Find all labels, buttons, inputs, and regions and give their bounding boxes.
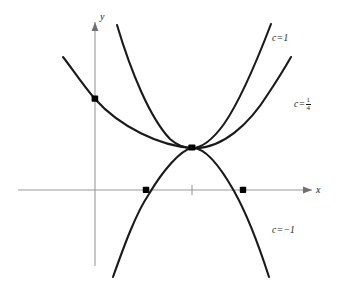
y-axis-arrowhead	[92, 22, 99, 31]
curves-group	[63, 24, 291, 277]
figure-canvas: y x c=1 c= 1 4 c=−1	[0, 0, 346, 290]
fraction-numerator: 1	[306, 97, 312, 104]
curve-c-equals-minus-1	[113, 148, 269, 277]
curve-c-equals-1	[117, 24, 271, 148]
tangency-point	[188, 144, 195, 150]
curve-label-equals-sign: =	[276, 33, 283, 43]
x-axis-label: x	[316, 185, 320, 195]
curve-label-c-value: −1	[284, 225, 295, 235]
parabola-family-plot	[0, 0, 346, 290]
curve-label-c-equals-1: c=1	[272, 34, 288, 44]
fraction-denominator: 4	[306, 104, 312, 112]
curve-label-c-value: 1	[284, 33, 289, 43]
curve-label-c-equals-one-quarter: c= 1 4	[294, 97, 311, 113]
curve-label-c-equals-minus-1: c=−1	[272, 226, 295, 236]
x-axis-point-left	[143, 187, 149, 193]
curve-label-equals-sign: =	[276, 225, 283, 235]
x-axis-arrowhead	[303, 187, 312, 194]
fraction-one-quarter: 1 4	[306, 97, 312, 113]
y-axis-label: y	[100, 12, 104, 22]
y-axis-point	[92, 96, 99, 102]
x-axis-point-right	[240, 187, 246, 193]
curve-label-equals-sign: =	[298, 99, 305, 109]
curve-c-equals-one-quarter	[63, 57, 291, 148]
